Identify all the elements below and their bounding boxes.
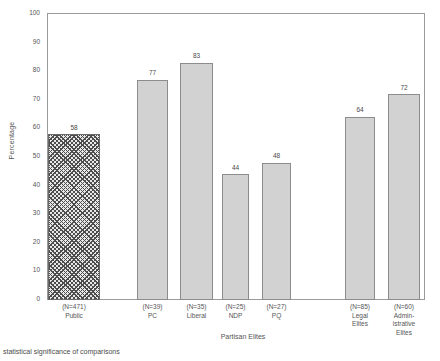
sample-size: (N=39) xyxy=(133,303,173,312)
bar xyxy=(222,174,249,300)
y-axis-tick: 10 xyxy=(33,267,40,274)
bar-chart: Percentage 1009080706050403020100 587783… xyxy=(0,0,440,361)
category-label: (N=471)Public xyxy=(48,303,100,320)
y-axis-tick: 30 xyxy=(33,210,40,217)
bar-value-label: 58 xyxy=(48,125,100,132)
bar-value-label: 72 xyxy=(388,85,420,92)
sample-size: (N=25) xyxy=(216,303,256,312)
category-label: (N=25)NDP xyxy=(216,303,256,320)
category-name-line: Elites xyxy=(384,329,424,338)
sample-size: (N=27) xyxy=(257,303,297,312)
y-axis-tick: 60 xyxy=(33,124,40,131)
category-name-line: istrative xyxy=(384,320,424,329)
category-name-line: Admin- xyxy=(384,312,424,321)
bar-group: 77 xyxy=(137,68,168,300)
category-label: (N=35)Liberal xyxy=(177,303,217,320)
y-axis-tick: 20 xyxy=(33,239,40,246)
bars-layer: 58778344486472 xyxy=(48,14,424,300)
bar-group: 44 xyxy=(222,162,249,300)
y-axis-tick: 40 xyxy=(33,181,40,188)
sample-size: (N=85) xyxy=(340,303,380,312)
category-label: (N=85)LegalElites xyxy=(340,303,380,329)
category-name-line: PC xyxy=(133,312,173,321)
bar xyxy=(262,163,291,300)
category-label: (N=39)PC xyxy=(133,303,173,320)
category-name-line: Elites xyxy=(340,320,380,329)
bar-value-label: 83 xyxy=(180,53,213,60)
category-name-line: PQ xyxy=(257,312,297,321)
bar-value-label: 48 xyxy=(262,153,291,160)
bar xyxy=(345,117,375,300)
bar xyxy=(48,134,100,300)
category-name-line: Liberal xyxy=(177,312,217,321)
y-axis-tick: 0 xyxy=(36,296,40,303)
bar-value-label: 64 xyxy=(345,107,375,114)
bar xyxy=(388,94,420,300)
bar-group: 58 xyxy=(48,122,100,300)
y-axis-tick: 70 xyxy=(33,96,40,103)
y-axis-tick: 80 xyxy=(33,67,40,74)
category-name-line: Public xyxy=(48,312,100,321)
footer-caption: statistical significance of comparisons xyxy=(3,348,120,355)
bar-value-label: 77 xyxy=(137,70,168,77)
bar-group: 83 xyxy=(180,51,213,300)
y-axis-tick: 50 xyxy=(33,153,40,160)
x-axis-title: Partisan Elites xyxy=(168,333,318,340)
category-name-line: NDP xyxy=(216,312,256,321)
sample-size: (N=471) xyxy=(48,303,100,312)
bar xyxy=(180,63,213,300)
category-label: (N=60)Admin-istrativeElites xyxy=(384,303,424,337)
category-label: (N=27)PQ xyxy=(257,303,297,320)
y-axis-tick: 100 xyxy=(29,10,40,17)
y-axis-tick-labels: 1009080706050403020100 xyxy=(0,13,44,300)
sample-size: (N=60) xyxy=(384,303,424,312)
bar-value-label: 44 xyxy=(222,165,249,172)
category-name-line: Legal xyxy=(340,312,380,321)
sample-size: (N=35) xyxy=(177,303,217,312)
bar-group: 64 xyxy=(345,105,375,300)
y-axis-tick: 90 xyxy=(33,38,40,45)
bar-group: 72 xyxy=(388,82,420,300)
bar-group: 48 xyxy=(262,151,291,300)
bar xyxy=(137,80,168,300)
